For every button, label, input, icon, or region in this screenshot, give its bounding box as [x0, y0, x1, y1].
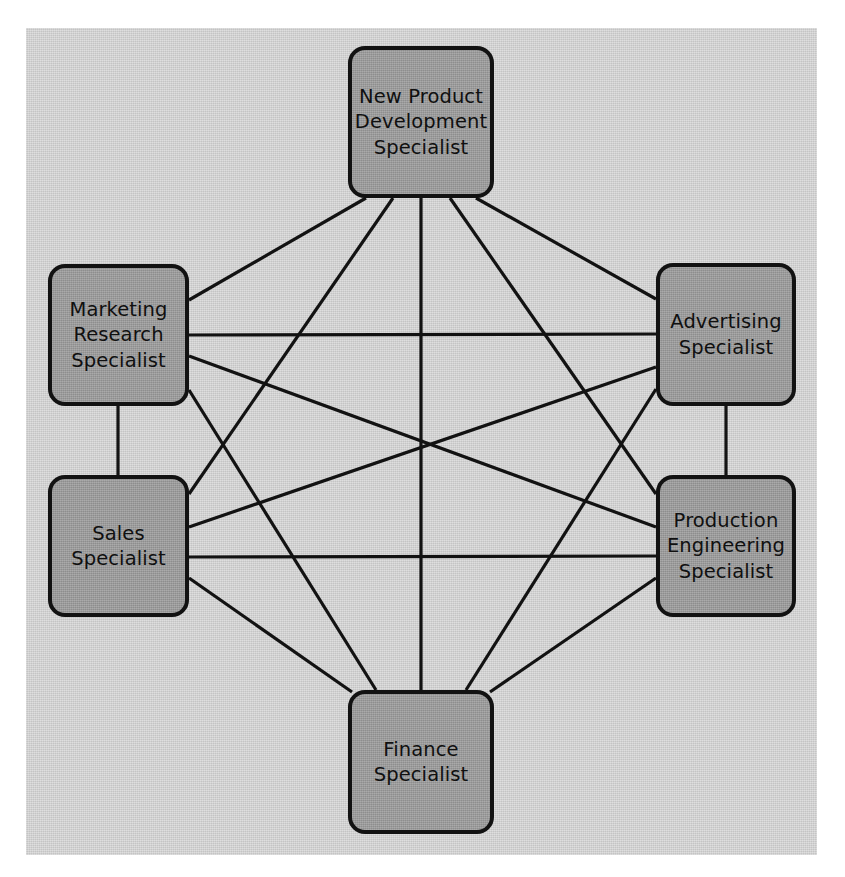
- node-finance-specialist[interactable]: Finance Specialist: [348, 690, 494, 834]
- edge-npd-marketing-research: [189, 198, 366, 300]
- edge-production-engineering-finance: [490, 578, 656, 692]
- edge-npd-advertising: [476, 198, 656, 299]
- edge-marketing-research-advertising: [189, 334, 656, 335]
- node-label: Sales Specialist: [71, 521, 165, 572]
- node-label: New Product Development Specialist: [355, 84, 487, 160]
- node-label: Advertising Specialist: [670, 309, 781, 360]
- node-label: Production Engineering Specialist: [667, 508, 785, 584]
- edge-sales-production-engineering: [189, 556, 656, 557]
- node-advertising-specialist[interactable]: Advertising Specialist: [656, 263, 796, 406]
- node-production-engineering-specialist[interactable]: Production Engineering Specialist: [656, 475, 796, 617]
- node-label: Marketing Research Specialist: [69, 297, 167, 373]
- node-label: Finance Specialist: [374, 737, 468, 788]
- node-sales-specialist[interactable]: Sales Specialist: [48, 475, 189, 617]
- node-marketing-research-specialist[interactable]: Marketing Research Specialist: [48, 264, 189, 406]
- node-new-product-development-specialist[interactable]: New Product Development Specialist: [348, 46, 494, 198]
- edge-sales-finance: [189, 578, 352, 692]
- network-diagram-figure: New Product Development Specialist Marke…: [0, 0, 845, 877]
